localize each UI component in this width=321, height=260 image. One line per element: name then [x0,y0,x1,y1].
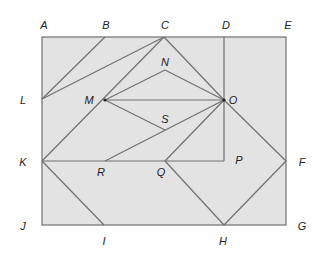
label-O: O [229,94,238,106]
label-H: H [219,235,227,247]
label-P: P [235,154,243,166]
label-G: G [298,220,307,232]
vertex-M [103,98,106,101]
label-F: F [299,156,307,168]
label-S: S [161,113,169,125]
label-I: I [102,235,105,247]
label-B: B [102,19,109,31]
label-E: E [284,19,292,31]
label-L: L [20,94,26,106]
label-A: A [39,19,47,31]
label-J: J [19,220,26,232]
geometry-diagram: ABCDELMNOSKRQPFJIHG [0,0,321,260]
label-Q: Q [157,166,166,178]
label-K: K [19,156,27,168]
label-R: R [97,166,105,178]
label-N: N [161,56,169,68]
label-D: D [222,19,230,31]
label-M: M [84,94,94,106]
label-C: C [161,19,169,31]
vertex-O [222,98,225,101]
